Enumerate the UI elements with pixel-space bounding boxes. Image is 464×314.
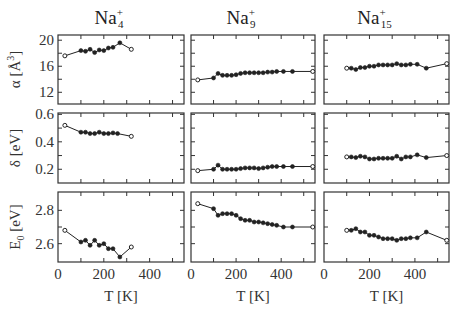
data-point (349, 155, 353, 159)
data-point (248, 166, 252, 170)
data-point (93, 132, 97, 136)
data-point (424, 230, 428, 234)
data-point (399, 157, 403, 161)
data-point (311, 165, 315, 169)
data-point (79, 130, 83, 134)
data-point (79, 240, 83, 244)
y-tick-label: 16 (39, 58, 55, 74)
panel-alpha-Na4: 121620 (39, 32, 184, 104)
data-point (377, 63, 381, 67)
data-point (111, 247, 115, 251)
data-point (367, 233, 371, 237)
data-point (404, 155, 408, 159)
data-point (111, 131, 115, 135)
data-point (252, 220, 256, 224)
panel-alpha-Na9 (191, 35, 315, 104)
data-point (363, 230, 367, 234)
data-point (216, 213, 220, 217)
data-point (311, 225, 315, 229)
data-point (408, 155, 412, 159)
data-point (281, 69, 285, 73)
data-point (281, 165, 285, 169)
figure: Na+4Na+9Na+15α [Å3]121620δ [eV]0.20.40.6… (0, 0, 464, 314)
x-tick-label: 400 (270, 266, 293, 282)
data-point (290, 225, 294, 229)
x-tick-label: 0 (187, 266, 195, 282)
data-point (230, 212, 234, 216)
data-point (216, 163, 220, 167)
data-point (111, 45, 115, 49)
data-point (79, 49, 83, 53)
data-point (225, 167, 229, 171)
data-point (390, 237, 394, 241)
panel-title-Na15: Na+15 (357, 6, 392, 30)
data-point (275, 223, 279, 227)
data-point (349, 66, 353, 70)
panel-title-Na9: Na+9 (227, 6, 256, 30)
data-point (386, 63, 390, 67)
data-point (408, 236, 412, 240)
data-point (367, 157, 371, 161)
data-point (395, 62, 399, 66)
data-point (118, 255, 122, 259)
data-point (102, 242, 106, 246)
data-point (311, 69, 315, 73)
data-point (83, 238, 87, 242)
data-point (363, 155, 367, 159)
y-tick-label: 2.6 (35, 236, 54, 252)
data-point (221, 212, 225, 216)
data-point (196, 202, 200, 206)
y-tick-label: 20 (39, 32, 54, 48)
data-point (358, 230, 362, 234)
data-point (196, 78, 200, 82)
x-tick-label: 400 (404, 266, 427, 282)
panel-alpha-Na15 (324, 35, 449, 104)
data-point (290, 165, 294, 169)
x-tick-label: 0 (320, 266, 328, 282)
data-point (83, 130, 87, 134)
data-point (102, 49, 106, 53)
data-point (257, 71, 261, 75)
data-point (404, 63, 408, 67)
data-point (349, 228, 353, 232)
data-point (261, 221, 265, 225)
data-point (83, 49, 87, 53)
plot-frame (58, 192, 184, 262)
data-point (345, 66, 349, 70)
data-point (354, 68, 358, 72)
panel-delta-Na15 (324, 113, 449, 183)
data-point (243, 166, 247, 170)
data-point (408, 62, 412, 66)
y-tick-label: 2.8 (35, 202, 54, 218)
x-axis-label: T [K] (104, 288, 137, 304)
data-point (106, 46, 110, 50)
panel-title-Na4: Na+4 (95, 6, 124, 30)
data-point (212, 76, 216, 80)
data-point (261, 166, 265, 170)
data-point (93, 238, 97, 242)
data-point (234, 73, 238, 77)
data-point (390, 156, 394, 160)
data-point (239, 71, 243, 75)
data-point (399, 63, 403, 67)
data-point (372, 157, 376, 161)
data-point (248, 71, 252, 75)
data-point (248, 218, 252, 222)
panel-E0-Na15: 0200400T [K] (320, 192, 449, 304)
data-point (252, 71, 256, 75)
data-point (381, 156, 385, 160)
y-tick-label: 0.4 (35, 134, 54, 150)
data-point (196, 169, 200, 173)
data-point (102, 132, 106, 136)
data-point (243, 218, 247, 222)
data-point (445, 238, 449, 242)
data-point (116, 132, 120, 136)
data-point (266, 165, 270, 169)
data-point (386, 156, 390, 160)
data-point (399, 237, 403, 241)
data-point (97, 130, 101, 134)
data-point (88, 47, 92, 51)
data-point (354, 156, 358, 160)
data-point (395, 238, 399, 242)
data-point (367, 64, 371, 68)
